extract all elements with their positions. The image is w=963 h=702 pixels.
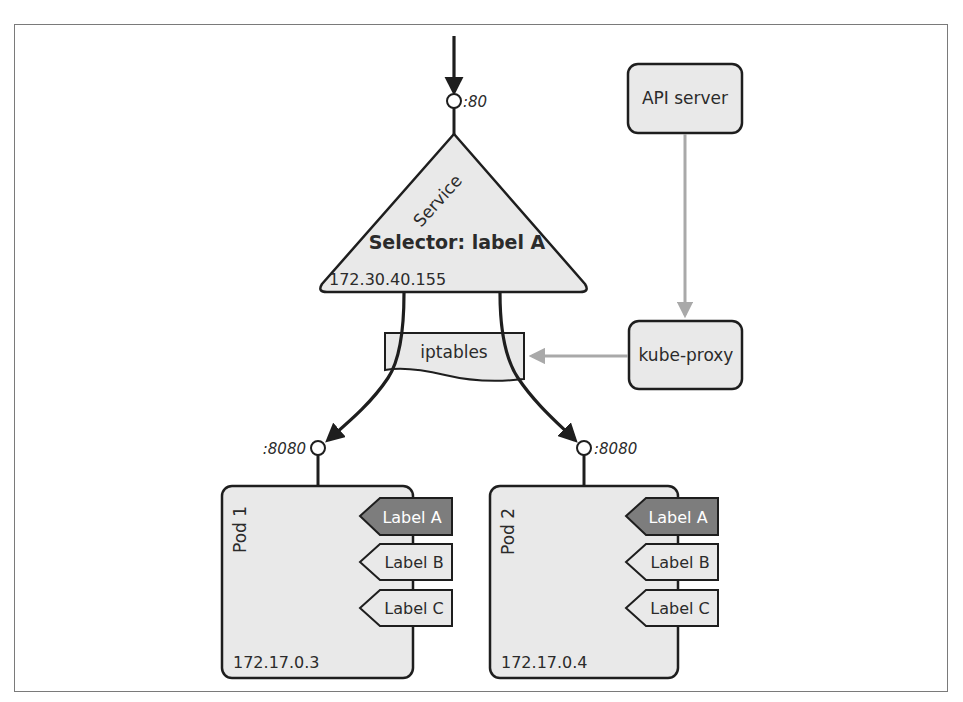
service-triangle-shape: [320, 134, 586, 292]
pod-1-label-a-text: Label A: [382, 508, 441, 527]
service-routing-diagram: :80 Service Selector: label A 172.30.40.…: [0, 0, 963, 702]
service-selector-label: Selector: label A: [369, 231, 546, 253]
pod-2-port: :8080: [577, 440, 637, 486]
pod-2-ip: 172.17.0.4: [501, 653, 588, 672]
service-port-80: :80: [447, 93, 487, 136]
kube-proxy-node: kube-proxy: [629, 321, 742, 389]
pod-2-name: Pod 2: [498, 508, 518, 555]
pod-1-name: Pod 1: [230, 506, 250, 553]
pod-2-label-c: Label C: [626, 590, 718, 626]
service-node: Service Selector: label A 172.30.40.155: [320, 134, 586, 292]
pod-2-label-a: Label A: [626, 498, 718, 535]
pod-2: :8080 Pod 2 172.17.0.4 Label A Label B L…: [490, 440, 718, 678]
pod-1: :8080 Pod 1 172.17.0.3 Label A Label B L…: [222, 440, 452, 678]
pod-1-label-b-text: Label B: [384, 553, 443, 572]
pod-2-label-b-text: Label B: [650, 553, 709, 572]
pod-1-label-a: Label A: [360, 498, 452, 535]
pod-1-port: :8080: [263, 440, 325, 486]
service-port-label: :80: [463, 93, 487, 111]
service-cluster-ip: 172.30.40.155: [329, 270, 446, 289]
pod-2-port-label: :8080: [594, 440, 637, 458]
pod-1-label-b: Label B: [360, 544, 452, 580]
pod-1-ip: 172.17.0.3: [233, 653, 320, 672]
kube-proxy-label: kube-proxy: [639, 345, 734, 365]
iptables-label: iptables: [420, 342, 488, 362]
traffic-edge-service-to-pod-2: [500, 293, 575, 440]
api-server-node: API server: [628, 64, 742, 133]
pod-1-port-label: :8080: [263, 440, 306, 458]
pod-2-label-c-text: Label C: [650, 599, 709, 618]
pod-1-label-c-text: Label C: [384, 599, 443, 618]
pod-2-label-b: Label B: [626, 544, 718, 580]
pod-1-label-c: Label C: [360, 590, 452, 626]
api-server-label: API server: [642, 88, 728, 108]
traffic-edge-service-to-pod-1: [328, 293, 404, 440]
pod-2-label-a-text: Label A: [648, 508, 707, 527]
